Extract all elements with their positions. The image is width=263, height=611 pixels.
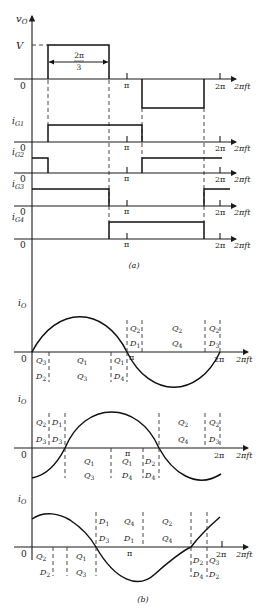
- io-plot-1: iO Q2 Q2 Q2 D1 Q4 D3 Q3 Q1 Q1 D2 Q3 D4 0…: [14, 298, 253, 387]
- caption-a: (a): [128, 261, 139, 270]
- svg-text:π: π: [124, 81, 129, 90]
- svg-text:π: π: [124, 174, 129, 183]
- svg-text:Q2: Q2: [172, 324, 183, 334]
- svg-text:2πft: 2πft: [233, 175, 251, 184]
- svg-text:Q2: Q2: [178, 418, 189, 428]
- svg-text:3: 3: [77, 63, 82, 72]
- svg-text:π: π: [124, 207, 129, 216]
- svg-text:D2: D2: [39, 568, 50, 578]
- svg-text:D1: D1: [129, 339, 140, 349]
- svg-text:D2: D2: [35, 372, 46, 382]
- svg-text:2πft: 2πft: [235, 451, 253, 460]
- svg-text:Q3: Q3: [76, 568, 87, 578]
- svg-text:Q4: Q4: [172, 339, 183, 349]
- svg-text:2π: 2π: [214, 355, 224, 364]
- svg-text:2π: 2π: [215, 241, 225, 250]
- svg-text:Q2: Q2: [36, 552, 47, 562]
- svg-text:D3: D3: [208, 435, 219, 445]
- io-plot-2: iO Q2 D1 D3 D3 Q2 Q4 Q2 D3 Q1 Q3 Q1 D4 D…: [14, 394, 253, 481]
- svg-text:Q4: Q4: [124, 517, 135, 527]
- svg-text:iO: iO: [18, 394, 27, 406]
- ig3-waveform: iG3 0 π 2π 2πft: [12, 179, 251, 217]
- svg-text:Q1: Q1: [122, 457, 132, 467]
- svg-text:Q2: Q2: [130, 324, 141, 334]
- svg-text:D3: D3: [208, 339, 219, 349]
- panel-b: iO Q2 Q2 Q2 D1 Q4 D3 Q3 Q1 Q1 D2 Q3 D4 0…: [14, 298, 253, 604]
- svg-text:Q1: Q1: [114, 356, 124, 366]
- vo-label: vO: [16, 13, 28, 26]
- svg-text:Q1: Q1: [84, 457, 94, 467]
- svg-text:2π: 2π: [215, 144, 225, 153]
- svg-text:2π: 2π: [74, 51, 84, 60]
- svg-text:Q2: Q2: [209, 324, 220, 334]
- level-v-label: V: [16, 40, 25, 51]
- svg-text:D4: D4: [121, 471, 132, 481]
- svg-text:2π: 2π: [214, 451, 224, 460]
- svg-text:D1: D1: [123, 534, 134, 544]
- svg-text:D3: D3: [35, 435, 46, 445]
- svg-text:π: π: [124, 143, 129, 152]
- svg-text:Q3: Q3: [77, 372, 88, 382]
- svg-text:D4: D4: [144, 471, 155, 481]
- svg-text:D1: D1: [51, 418, 62, 428]
- svg-text:Q2: Q2: [162, 517, 173, 527]
- svg-text:D2: D2: [144, 457, 155, 467]
- svg-text:Q2: Q2: [36, 418, 47, 428]
- svg-text:2π: 2π: [215, 175, 225, 184]
- svg-text:2πft: 2πft: [233, 82, 251, 91]
- svg-text:π: π: [124, 240, 129, 249]
- svg-text:Q1: Q1: [77, 356, 87, 366]
- svg-text:iG1: iG1: [12, 116, 24, 128]
- svg-text:D4: D4: [113, 372, 124, 382]
- ig4-waveform: iG4 0 π 2π 2πft: [12, 212, 251, 250]
- svg-text:2πft: 2πft: [233, 208, 251, 217]
- svg-text:Q4: Q4: [162, 534, 173, 544]
- svg-text:2πft: 2πft: [235, 550, 253, 559]
- svg-text:2πft: 2πft: [233, 241, 251, 250]
- svg-text:0: 0: [21, 549, 27, 559]
- svg-text:D3: D3: [98, 534, 109, 544]
- svg-text:0: 0: [20, 240, 26, 250]
- svg-text:Q3: Q3: [36, 356, 47, 366]
- svg-text:2πft: 2πft: [233, 144, 251, 153]
- ig1-waveform: iG1 0 π 2π 2πft: [12, 116, 251, 153]
- svg-text:2π: 2π: [216, 550, 226, 559]
- svg-text:D3: D3: [51, 435, 62, 445]
- svg-text:2πft: 2πft: [235, 355, 253, 364]
- svg-text:0: 0: [21, 450, 27, 460]
- svg-text:2π: 2π: [215, 208, 225, 217]
- caption-b: (b): [137, 595, 148, 604]
- svg-text:0: 0: [20, 81, 26, 91]
- io-plot-3: iO D1 D3 Q4 D1 Q2 Q4 Q2 D2 Q1 Q3 D2 D4 Q…: [14, 494, 253, 581]
- svg-text:D2: D2: [192, 556, 203, 566]
- svg-text:π: π: [125, 449, 130, 458]
- svg-text:2π: 2π: [215, 82, 225, 91]
- svg-text:Q4: Q4: [178, 435, 189, 445]
- inverter-waveform-diagram: vO V 2π 3 0 π 2π 2πft iG1: [0, 0, 263, 611]
- svg-text:Q3: Q3: [84, 471, 95, 481]
- svg-text:iO: iO: [18, 494, 27, 506]
- svg-text:Q1: Q1: [76, 552, 86, 562]
- svg-text:π: π: [127, 549, 132, 558]
- svg-text:0: 0: [21, 354, 27, 364]
- svg-text:π: π: [129, 353, 134, 362]
- svg-text:D1: D1: [98, 517, 109, 527]
- svg-text:Q2: Q2: [209, 418, 220, 428]
- svg-text:iO: iO: [18, 298, 27, 310]
- svg-text:D2: D2: [208, 570, 219, 580]
- vo-waveform: vO V 2π 3 0 π 2π 2πft: [14, 13, 251, 108]
- svg-text:D4: D4: [192, 570, 203, 580]
